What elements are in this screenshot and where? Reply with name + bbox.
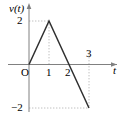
origin-label: O [21,66,29,78]
y-tick-label-minus-2: −2 [11,101,23,113]
x-tick-label-3: 3 [86,47,92,59]
x-axis-label: t [113,64,116,76]
x-tick-label-2: 2 [65,66,71,78]
velocity-graph-figure: v(t) t O 2 −2 1 2 3 [0,0,128,117]
y-axis-label: v(t) [9,2,24,14]
x-tick-label-1: 1 [46,66,52,78]
y-tick-label-2: 2 [17,14,23,26]
y-axis-arrow [27,3,32,9]
